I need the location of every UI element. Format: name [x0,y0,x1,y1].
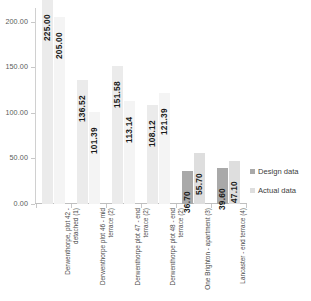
bar-value-label: 101.39 [90,127,98,154]
y-axis-tick-mark [31,22,35,23]
bar-group: 39.6047.10 [217,8,240,204]
legend-item-actual-data[interactable]: Actual data [250,187,311,195]
bar-value-label: 108.12 [148,121,156,148]
y-axis-tick-label: 200.00 [5,18,28,25]
bar-value-label: 136.52 [78,95,86,122]
y-axis-tick-label: 0.00 [14,200,28,207]
y-axis-tick-label: 150.00 [5,63,28,70]
chart-legend: Design data Actual data [250,168,311,205]
plot-area: 225.00205.00136.52101.39151.58113.14108.… [36,8,246,204]
bar-chart: 0.0050.00100.00150.00200.00 225.00205.00… [0,0,311,301]
y-axis-tick-mark [31,67,35,68]
legend-swatch-actual-data [250,188,255,193]
legend-label-design-data: Design data [258,168,299,176]
y-axis-tick-mark [31,204,35,205]
bar-value-label: 47.10 [230,181,238,203]
bar-value-label: 113.14 [125,116,133,142]
bar-group: 108.12121.39 [147,8,170,204]
y-axis-tick-mark [31,158,35,159]
y-axis-tick-label: 100.00 [5,109,28,116]
x-axis-category-label: Derwenthorpe plot 48 - end terrace (2) [169,208,185,294]
x-axis-category-label: Derwenthorpe, plot 42 - detached (1) [64,208,80,294]
bar-group: 151.58113.14 [112,8,135,204]
x-axis-category-label: Lancaster - end terrace (4) [239,208,247,294]
x-axis-tick-mark [36,204,37,208]
bar-value-label: 151.58 [113,81,121,108]
legend-item-design-data[interactable]: Design data [250,168,311,176]
bar-actual-data[interactable] [89,112,100,204]
bar-value-label: 39.60 [218,188,226,210]
bar-value-label: 121.39 [160,109,168,136]
bar-value-label: 225.00 [43,14,51,41]
x-axis-category-label: One Brighton - apartment (3) [204,208,212,294]
bar-group: 136.52101.39 [77,8,100,204]
legend-label-actual-data: Actual data [258,187,296,195]
bar-group: 36.7055.70 [182,8,205,204]
y-axis-tick-mark [31,113,35,114]
x-axis-category-label: Derwenthorpe plot 47 - end terrace (2) [134,208,150,294]
y-axis-tick-label: 50.00 [10,154,29,161]
bar-value-label: 205.00 [55,32,63,59]
bar-value-label: 55.70 [195,173,203,195]
x-axis-category-label: Derwenthorpe plot 46 - mid terrace (2) [99,208,115,294]
bar-group: 225.00205.00 [42,8,65,204]
legend-swatch-design-data [250,169,255,174]
